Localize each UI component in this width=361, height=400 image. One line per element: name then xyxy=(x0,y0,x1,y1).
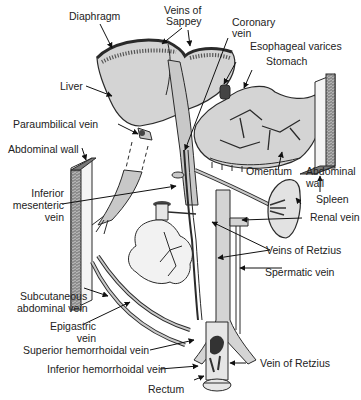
intestines xyxy=(129,201,197,284)
label-abdominal-wall-right-line1: Abdominal xyxy=(306,165,356,177)
paraumbilical-vein xyxy=(92,128,152,234)
label-vein-of-retzius: Vein of Retzius xyxy=(260,357,330,369)
label-rectum: Rectum xyxy=(148,383,184,395)
abdominal-wall-left xyxy=(71,158,96,310)
label-diaphragm: Diaphragm xyxy=(69,10,120,22)
spleen xyxy=(195,170,300,238)
portal-collateral-diagram: Diaphragm Veins of Sappey Coronary vein … xyxy=(0,0,361,400)
label-epigastric-vein-line1: Epigastric xyxy=(20,320,96,332)
label-abdominal-wall-left: Abdominal wall xyxy=(8,143,79,155)
label-esophageal-varices: Esophageal varices xyxy=(250,40,342,52)
label-inferior-hemorrhoidal-vein: Inferior hemorrhoidal vein xyxy=(47,363,166,375)
rectum xyxy=(203,322,231,391)
label-stomach: Stomach xyxy=(266,55,307,67)
label-inferior-mesenteric-line3: vein xyxy=(8,211,64,223)
label-paraumbilical-vein: Paraumbilical vein xyxy=(13,118,98,130)
label-veins-of-retzius: Veins of Retzius xyxy=(266,244,341,256)
label-coronary-vein-line2: vein xyxy=(232,27,251,39)
label-epigastric-vein-line2: vein xyxy=(20,332,96,344)
label-inferior-mesenteric-line2: mesenteric xyxy=(8,199,64,211)
label-omentum: Omentum xyxy=(246,165,292,177)
label-liver: Liver xyxy=(60,80,83,92)
label-veins-of-sappey-line2: Sappey xyxy=(166,15,202,27)
label-spleen: Spleen xyxy=(316,193,349,205)
label-inferior-mesenteric-line1: Inferior xyxy=(8,187,64,199)
label-subcutaneous-abdominal-vein-line2: abdominal vein xyxy=(17,302,88,314)
label-renal-vein: Renal vein xyxy=(310,211,360,223)
label-subcutaneous-abdominal-vein-line1: Subcutaneous xyxy=(20,290,87,302)
stomach xyxy=(194,85,320,172)
label-spermatic-vein: Spermatic vein xyxy=(265,266,334,278)
label-superior-hemorrhoidal-vein: Superior hemorrhoidal vein xyxy=(23,344,149,356)
label-abdominal-wall-right-line2: wall xyxy=(306,177,324,189)
